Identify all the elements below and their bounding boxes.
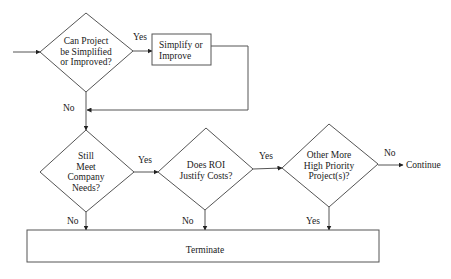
q2-yes-label: Yes [138, 155, 152, 166]
text-line: High Priority [304, 161, 354, 172]
q3-yes-arrow [253, 168, 282, 169]
terminate-label: Terminate [186, 245, 224, 256]
text-line: or Improved? [60, 57, 111, 68]
text-line: Does ROI [179, 160, 232, 171]
decision-priority-text: Other More High Priority Project(s)? [304, 150, 354, 182]
text-line: Simplify or [159, 40, 203, 51]
text-line: Can Project [60, 36, 111, 47]
decision-roi-text: Does ROI Justify Costs? [179, 160, 232, 181]
text-line: Justify Costs? [179, 170, 232, 181]
text-line: Needs? [68, 183, 105, 194]
text-line: Other More [304, 150, 354, 161]
q2-no-label: No [67, 216, 79, 227]
text-line: Company [68, 172, 105, 183]
q1-no-label: No [63, 103, 75, 114]
decision-needs-text: Still Meet Company Needs? [68, 151, 105, 193]
q4-no-label: No [384, 148, 396, 159]
q3-yes-label: Yes [259, 151, 273, 162]
q4-yes-label: Yes [306, 216, 320, 227]
q1-yes-label: Yes [133, 32, 147, 43]
simplify-box-text: Simplify or Improve [159, 40, 203, 61]
text-line: Meet [68, 162, 105, 173]
text-line: Improve [159, 51, 203, 62]
q3-no-label: No [182, 216, 194, 227]
decision-simplify-text: Can Project be Simplified or Improved? [60, 36, 111, 68]
text-line: Still [68, 151, 105, 162]
text-line: Project(s)? [304, 171, 354, 182]
text-line: be Simplified [60, 47, 111, 58]
continue-label: Continue [406, 160, 441, 171]
